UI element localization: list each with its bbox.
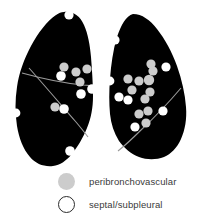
legend-item-peribronchovascular: peribronchovascular <box>58 170 176 192</box>
septal-subpleural-dot <box>56 71 66 81</box>
septal-subpleural-dot <box>110 35 119 44</box>
septal-subpleural-dot <box>161 62 170 71</box>
peribronchovascular-dot <box>123 74 132 83</box>
peribronchovascular-dot <box>82 64 91 73</box>
septal-subpleural-dot <box>76 89 86 99</box>
peribronchovascular-dot <box>141 118 150 127</box>
septal-subpleural-dot <box>65 146 75 156</box>
peribronchovascular-dot <box>140 94 149 103</box>
peribronchovascular-dot <box>71 67 80 76</box>
septal-subpleural-dot <box>59 104 69 114</box>
peribronchovascular-dot <box>134 109 143 118</box>
septal-subpleural-dot <box>106 77 115 86</box>
lung-distribution-figure: peribronchovascular septal/subpleural <box>0 0 206 218</box>
legend: peribronchovascular septal/subpleural <box>0 168 206 218</box>
peribronchovascular-dot <box>50 102 59 111</box>
septal-subpleural-dot <box>12 109 21 118</box>
right-lung-silhouette <box>109 14 186 159</box>
septal-subpleural-dot <box>123 95 132 104</box>
septal-subpleural-dot <box>114 92 123 101</box>
outlined-circle-icon <box>58 196 75 213</box>
septal-subpleural-dot <box>87 84 97 94</box>
peribronchovascular-dot <box>127 85 136 94</box>
legend-item-label: septal/subpleural <box>89 199 163 210</box>
peribronchovascular-dot <box>75 77 84 86</box>
legend-item-septal-subpleural: septal/subpleural <box>58 193 163 215</box>
peribronchovascular-dot <box>148 66 157 75</box>
peribronchovascular-dot <box>143 106 152 115</box>
peribronchovascular-dot <box>134 76 143 85</box>
peribronchovascular-dot <box>59 62 68 71</box>
left-lung-silhouette <box>16 12 94 166</box>
septal-subpleural-dot <box>130 122 139 131</box>
peribronchovascular-dot <box>144 75 154 85</box>
septal-subpleural-dot <box>158 106 167 115</box>
filled-circle-icon <box>58 173 75 190</box>
septal-subpleural-dot <box>64 10 73 19</box>
legend-item-label: peribronchovascular <box>89 176 176 187</box>
